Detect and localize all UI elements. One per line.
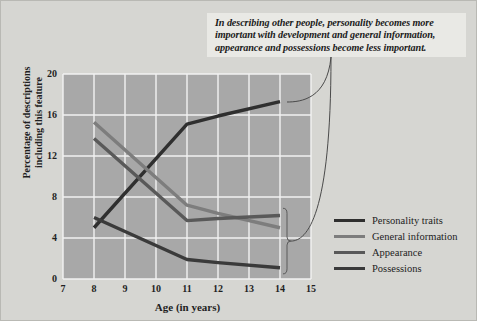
legend-swatch-icon: [334, 235, 365, 238]
legend-swatch-icon: [334, 251, 365, 254]
legend-label: General information: [372, 231, 457, 242]
legend-label: Personality traits: [372, 215, 443, 226]
x-axis-title: Age (in years): [63, 301, 312, 313]
legend-item[interactable]: Personality traits: [334, 212, 457, 228]
x-tick-label: 12: [208, 283, 228, 294]
y-tick-label: 20: [35, 68, 57, 79]
x-tick-label: 11: [177, 283, 197, 294]
y-tick-label: 8: [35, 191, 57, 202]
y-tick-label: 4: [35, 232, 57, 243]
x-tick-label: 15: [301, 283, 321, 294]
legend-item[interactable]: Possessions: [334, 260, 457, 276]
legend-swatch-icon: [334, 219, 365, 222]
x-tick-label: 13: [239, 283, 259, 294]
legend-item[interactable]: General information: [334, 228, 457, 244]
x-tick-label: 8: [84, 283, 104, 294]
legend-swatch-icon: [334, 267, 365, 270]
y-tick-label: 12: [35, 150, 57, 161]
chart-legend: Personality traitsGeneral informationApp…: [334, 212, 457, 276]
y-tick-label: 16: [35, 109, 57, 120]
legend-label: Appearance: [372, 247, 422, 258]
x-tick-label: 10: [146, 283, 166, 294]
annotation-callout: In describing other people, personality …: [207, 13, 466, 57]
x-tick-label: 14: [270, 283, 290, 294]
figure-frame: In describing other people, personality …: [0, 0, 477, 321]
legend-item[interactable]: Appearance: [334, 244, 457, 260]
x-tick-label: 9: [115, 283, 135, 294]
legend-label: Possessions: [372, 263, 422, 274]
x-tick-label: 7: [53, 283, 73, 294]
annotation-text: In describing other people, personality …: [215, 17, 460, 54]
